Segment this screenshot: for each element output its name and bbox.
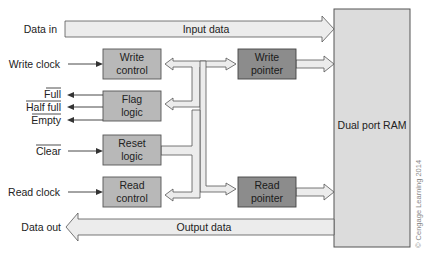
- copyright-note: © Cengage Learning 2014: [414, 160, 423, 248]
- half-full-arrow: [67, 104, 103, 110]
- read-control-block: Read control: [103, 177, 161, 207]
- full-label: Full: [44, 88, 61, 100]
- read-clock-arrow: [68, 189, 103, 195]
- svg-text:Reset: Reset: [118, 137, 146, 149]
- svg-text:Read: Read: [119, 179, 144, 191]
- svg-text:pointer: pointer: [251, 64, 284, 76]
- svg-text:logic: logic: [121, 150, 143, 162]
- output-data-bus: Output data: [66, 213, 334, 241]
- write-pointer-block: Write pointer: [238, 49, 296, 79]
- svg-text:pointer: pointer: [251, 192, 284, 204]
- data-out-label: Data out: [21, 221, 61, 233]
- full-arrow: [67, 92, 103, 98]
- input-data-bus: Input data: [65, 16, 334, 42]
- flag-logic-block: Flag logic: [103, 91, 161, 121]
- write-control-block: Write control: [103, 49, 161, 79]
- svg-text:Write: Write: [255, 51, 279, 63]
- write-clock-arrow: [68, 61, 103, 67]
- empty-label: Empty: [31, 114, 62, 126]
- write-clock-label: Write clock: [9, 58, 61, 70]
- output-data-label: Output data: [177, 221, 232, 233]
- ram-label: Dual port RAM: [338, 119, 407, 131]
- input-data-label: Input data: [183, 23, 230, 35]
- svg-text:control: control: [116, 64, 148, 76]
- read-pointer-block: Read pointer: [238, 177, 296, 207]
- data-in-label: Data in: [24, 23, 57, 35]
- svg-text:Write: Write: [120, 51, 144, 63]
- svg-text:Flag: Flag: [122, 93, 143, 105]
- read-pointer-to-ram-arrow: [296, 184, 334, 200]
- write-pointer-to-ram-arrow: [296, 56, 334, 72]
- svg-text:logic: logic: [121, 106, 143, 118]
- clear-arrow: [68, 148, 103, 154]
- svg-text:control: control: [116, 192, 148, 204]
- dual-port-ram: Dual port RAM: [334, 9, 410, 247]
- clear-label: Clear: [36, 145, 62, 157]
- half-full-label: Half full: [26, 101, 61, 113]
- empty-arrow: [67, 117, 103, 123]
- read-clock-label: Read clock: [8, 186, 61, 198]
- svg-text:Read: Read: [254, 179, 279, 191]
- pointer-trunk-bus: [200, 61, 236, 195]
- fifo-diagram: Dual port RAM Input data Data in Output …: [0, 0, 426, 260]
- reset-logic-block: Reset logic: [103, 135, 161, 165]
- read-control-bus: [161, 110, 200, 201]
